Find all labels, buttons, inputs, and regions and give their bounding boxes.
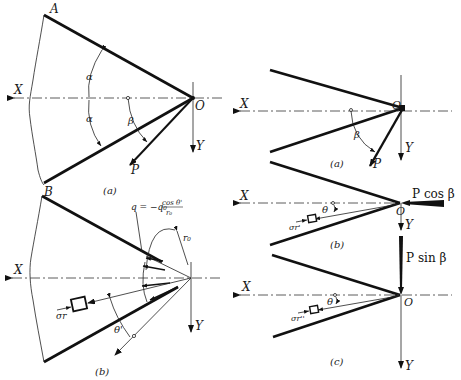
panel-left-a: A B X Y O P α α β (a) (13, 2, 222, 199)
wedge-edge-upper (270, 70, 403, 108)
label-y: Y (196, 139, 205, 153)
label-y: Y (405, 141, 414, 155)
wedge-edge-lower (44, 287, 178, 362)
stress-element (308, 214, 317, 222)
panel-left-b: X Y σr θ' r₀ q = −q₀ cos θ' r₀ (b) (12, 196, 222, 377)
caption-right-c: (c) (330, 356, 344, 367)
label-y: Y (195, 319, 204, 333)
sigma-r-arrow (57, 307, 71, 310)
label-p-sin-beta: P sin β (406, 251, 446, 265)
label-beta: β (353, 129, 360, 140)
label-sigma-r: σr (56, 311, 67, 321)
wedge-broken-edge (29, 15, 44, 185)
label-alpha-bottom: α (86, 113, 93, 124)
q-leader-line (136, 212, 142, 252)
wedge-edge-oa (44, 15, 193, 98)
label-q-denominator: r₀ (166, 209, 172, 217)
label-o: O (392, 99, 401, 112)
caption-right-a: (a) (330, 158, 344, 169)
panel-right-a: X O Y P β (a) (239, 70, 452, 171)
theta-arc (336, 297, 337, 304)
label-theta: θ (322, 204, 328, 215)
label-x: X (239, 97, 249, 111)
force-p-arrow (130, 98, 193, 165)
pressure-arrow-4 (150, 287, 178, 300)
ray-dot (132, 334, 135, 337)
label-beta: β (127, 115, 134, 126)
force-p-sin-beta-arrow (399, 236, 403, 290)
arc-center-dot (334, 294, 337, 297)
sigma-r-ray (88, 278, 191, 303)
arc-center-dot (126, 96, 129, 99)
label-alpha-top: α (86, 71, 93, 82)
r0-arc (146, 229, 175, 270)
label-x: X (241, 280, 251, 294)
panel-right-b: X O Y θ σr' P cos β (b) (239, 162, 455, 250)
stress-element (310, 305, 319, 313)
arc-center-dot (332, 202, 335, 205)
label-theta-prime: θ' (114, 324, 123, 335)
label-y: Y (405, 218, 414, 232)
label-p: P (372, 157, 382, 171)
label-sigma-r-double-prime: σr'' (291, 314, 305, 323)
label-o: O (396, 205, 405, 218)
label-p-cos-beta: P cos β (412, 187, 455, 201)
panel-right-c: X O Y θ σr'' P sin β (c) (240, 236, 452, 373)
wedge-edge-ob (44, 98, 193, 183)
wedge-diagram: A B X Y O P α α β (a) X Y σr θ' (0, 0, 461, 380)
arc-center-dot (350, 109, 353, 112)
label-o: O (195, 99, 205, 113)
label-y: Y (405, 359, 414, 373)
stress-element (71, 297, 87, 312)
caption-left-b: (b) (95, 366, 109, 377)
label-o: O (404, 296, 413, 309)
label-q-numerator: cos θ' (162, 199, 182, 207)
label-p: P (130, 163, 140, 177)
sigma-arrow (298, 311, 309, 313)
label-x: X (13, 83, 23, 97)
label-x: X (239, 189, 249, 203)
wedge-broken-edge (30, 196, 44, 362)
label-sigma-r-prime: σr' (289, 223, 300, 232)
caption-right-b: (b) (330, 239, 344, 250)
sigma-arrow (296, 220, 307, 222)
label-theta: θ (327, 296, 333, 307)
label-x: X (13, 263, 23, 277)
wedge-edge-upper (272, 255, 400, 295)
label-r0: r₀ (183, 233, 191, 243)
caption-left-a: (a) (103, 185, 117, 196)
label-a: A (49, 2, 59, 16)
theta-arc (334, 205, 335, 212)
